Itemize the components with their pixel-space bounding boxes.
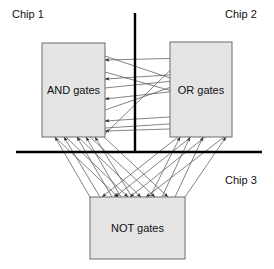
or-gate-block[interactable]: OR gates bbox=[170, 42, 232, 137]
not-gate-block[interactable]: NOT gates bbox=[90, 197, 185, 259]
signal-wire bbox=[185, 137, 226, 197]
circuit-partition-diagram: AND gatesOR gatesNOT gates Chip 1 Chip 2… bbox=[0, 0, 274, 269]
gate-blocks-group: AND gatesOR gatesNOT gates bbox=[42, 42, 232, 259]
signal-wire bbox=[86, 137, 121, 197]
signal-wire bbox=[66, 137, 128, 197]
signal-wire bbox=[55, 137, 90, 197]
signal-wire bbox=[150, 137, 180, 197]
signal-wire bbox=[55, 137, 118, 197]
signal-wire bbox=[146, 137, 224, 197]
diagram-canvas: AND gatesOR gatesNOT gates Chip 1 Chip 2… bbox=[0, 0, 274, 269]
or-box-label: OR gates bbox=[178, 84, 225, 96]
signal-wire bbox=[78, 137, 141, 197]
chip-2-label: Chip 2 bbox=[225, 8, 257, 20]
not-box-label: NOT gates bbox=[111, 222, 164, 234]
signal-wire bbox=[90, 137, 155, 197]
chip-1-label: Chip 1 bbox=[12, 8, 44, 20]
signal-wire bbox=[130, 137, 205, 197]
chip-3-label: Chip 3 bbox=[225, 174, 257, 186]
and-box-label: AND gates bbox=[47, 84, 101, 96]
and-gate-block[interactable]: AND gates bbox=[42, 43, 105, 137]
